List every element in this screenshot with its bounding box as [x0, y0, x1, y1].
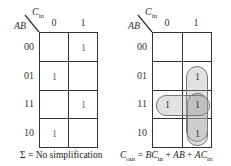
cell-01-0: 1: [40, 62, 69, 91]
row-variable: AB: [128, 20, 140, 31]
row-label-01: 01: [127, 70, 147, 81]
row-label-00: 00: [127, 41, 147, 52]
right-caption: Cout = BCin + AB + ACin: [120, 150, 212, 163]
cell-10-0: [153, 119, 182, 148]
left-karnaugh-map: Cin AB 0 1 00 01 11 10 1 1 1 1 Σ = No si…: [0, 0, 115, 166]
cell-10-1: [69, 119, 98, 148]
cell-01-1: 1: [183, 62, 212, 91]
cell-10-0: 1: [40, 119, 69, 148]
cell-11-0: 1: [153, 90, 182, 119]
kmap-grid: 1 1 1 1: [152, 32, 212, 148]
cell-11-1: 1: [69, 90, 98, 119]
col-label-0: 0: [160, 17, 174, 28]
col-label-0: 0: [47, 17, 61, 28]
cell-01-1: [69, 62, 98, 91]
cell-10-1: 1: [183, 119, 212, 148]
cell-00-0: [153, 33, 182, 62]
row-label-10: 10: [127, 127, 147, 138]
col-label-1: 1: [189, 17, 203, 28]
row-label-10: 10: [14, 127, 34, 138]
kmap-grid: 1 1 1 1: [39, 32, 98, 148]
row-label-11: 11: [14, 98, 34, 109]
row-label-11: 11: [127, 98, 147, 109]
row-variable: AB: [14, 20, 26, 31]
left-caption: Σ = No simplification: [20, 150, 102, 160]
col-variable: Cin: [145, 6, 157, 20]
cell-01-0: [153, 62, 182, 91]
col-variable: Cin: [32, 6, 44, 20]
cell-00-1: 1: [69, 33, 98, 62]
cell-11-0: [40, 90, 69, 119]
row-label-00: 00: [14, 41, 34, 52]
row-label-01: 01: [14, 70, 34, 81]
cell-00-1: [183, 33, 212, 62]
col-label-1: 1: [76, 17, 90, 28]
cell-11-1: 1: [183, 90, 212, 119]
cell-00-0: [40, 33, 69, 62]
right-karnaugh-map: Cin AB 0 1 00 01 11 10 1 1 1 1 Cout = BC…: [115, 0, 231, 166]
